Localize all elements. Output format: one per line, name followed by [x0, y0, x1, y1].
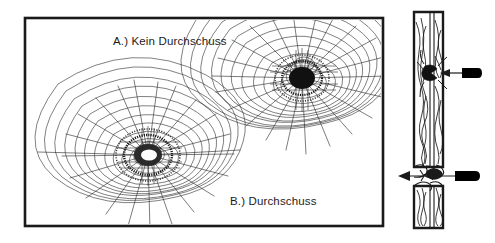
cross-section-glass-upper — [414, 12, 447, 167]
projectile-a-group — [440, 68, 482, 78]
impact-b-core-hole — [141, 150, 157, 161]
projectile-b-arrow-head — [398, 171, 410, 181]
projectile-b-body — [455, 171, 480, 181]
glass-impact-comparison-figure: A.) Kein Durchschuss B.) Durchschuss — [0, 0, 495, 243]
label-b-durchschuss: B.) Durchschuss — [230, 196, 317, 208]
label-a-kein-durchschuss: A.) Kein Durchschuss — [113, 36, 227, 48]
projectile-a-body — [462, 68, 482, 78]
cross-section-glass-lower — [414, 186, 443, 228]
crater-b-cross-section — [426, 168, 443, 180]
impact-a-core — [289, 67, 315, 89]
